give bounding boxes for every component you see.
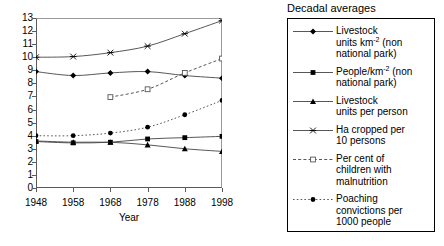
x-axis-label: Year — [36, 212, 222, 223]
y-axis-tick-labels: 012345678910111213 — [0, 18, 33, 188]
legend-label-line: 1000 people — [336, 216, 403, 228]
data-point-circle — [220, 98, 222, 103]
plot-region: 012345678910111213 194819581968197819881… — [0, 0, 232, 246]
y-tick-mark — [32, 149, 36, 150]
series-line — [36, 21, 222, 58]
x-axis-tick-labels: 194819581968197819881998 — [0, 188, 232, 214]
data-point-cross — [107, 50, 114, 56]
data-point-circle — [108, 131, 113, 136]
legend-label-line: units km-2 (non — [336, 37, 402, 49]
x-tick-mark — [185, 188, 186, 192]
data-point-diamond — [36, 69, 39, 75]
legend-key-diamond-icon — [292, 26, 334, 37]
legend-label: Ha cropped per10 persons — [334, 124, 405, 147]
legend-label-line: children with — [336, 164, 392, 176]
data-point-circle — [36, 133, 38, 138]
legend-item-per-cent-children-malnutrition[interactable]: Per cent ofchildren withmalnutrition — [288, 153, 434, 188]
data-point-circle — [145, 125, 150, 130]
data-point-cross — [70, 54, 77, 60]
x-tick-label: 1978 — [136, 198, 158, 208]
legend-label-line: convictions per — [336, 205, 403, 217]
data-point-square — [311, 70, 316, 75]
legend-key-square-icon — [292, 67, 334, 78]
legend-item-ha-cropped-per-10-persons[interactable]: Ha cropped per10 persons — [288, 124, 434, 147]
legend-item-people-per-km2[interactable]: People/km-2 (nonnational park) — [288, 66, 434, 89]
legend-label-line: malnutrition — [336, 176, 392, 188]
y-tick-mark — [32, 175, 36, 176]
series-line — [36, 100, 222, 136]
data-series-layer — [36, 18, 222, 188]
legend-label-line: Livestock — [336, 95, 408, 107]
data-point-cross — [219, 18, 222, 24]
x-tick-label: 1958 — [62, 198, 84, 208]
legend-title: Decadal averages — [287, 2, 376, 15]
data-point-circle — [182, 112, 187, 117]
y-tick-mark — [32, 57, 36, 58]
data-point-circle — [311, 197, 316, 202]
y-tick-mark — [32, 96, 36, 97]
legend-label-line: Per cent of — [336, 153, 392, 165]
data-point-open-square — [311, 157, 316, 162]
y-tick-mark — [32, 18, 36, 19]
data-point-square — [182, 135, 187, 140]
data-point-open-square — [220, 56, 222, 61]
y-tick-mark — [32, 188, 36, 189]
x-tick-label: 1948 — [25, 198, 47, 208]
x-tick-mark — [110, 188, 111, 192]
x-tick-mark — [36, 188, 37, 192]
legend-label-line: national park) — [336, 48, 402, 60]
legend-label: Livestockunits km-2 (nonnational park) — [334, 25, 402, 60]
data-point-square — [145, 137, 150, 142]
data-point-open-square — [108, 95, 113, 100]
y-tick-mark — [32, 110, 36, 111]
series-line — [36, 72, 222, 79]
legend-label: Livestockunits per person — [334, 95, 408, 118]
data-point-open-square — [182, 71, 187, 76]
y-tick-mark — [32, 70, 36, 71]
y-tick-mark — [32, 83, 36, 84]
legend-key-cross-icon — [292, 125, 334, 136]
x-tick-mark — [222, 188, 223, 192]
data-point-cross — [144, 43, 151, 49]
legend-label-line: units per person — [336, 106, 408, 118]
data-point-diamond — [310, 29, 316, 35]
x-tick-label: 1998 — [211, 198, 233, 208]
x-tick-label: 1968 — [99, 198, 121, 208]
y-tick-mark — [32, 44, 36, 45]
x-tick-mark — [148, 188, 149, 192]
legend-label-line: 10 persons — [336, 135, 405, 147]
x-tick-label: 1988 — [174, 198, 196, 208]
data-point-diamond — [219, 75, 222, 81]
legend-label: Poachingconvictions per1000 people — [334, 193, 403, 228]
legend-label: People/km-2 (nonnational park) — [334, 66, 412, 89]
legend-item-livestock-units-per-person[interactable]: Livestockunits per person — [288, 95, 434, 118]
y-tick-mark — [32, 136, 36, 137]
data-point-diamond — [145, 69, 151, 75]
legend-label: Per cent ofchildren withmalnutrition — [334, 153, 392, 188]
data-point-open-square — [145, 87, 150, 92]
data-point-diamond — [70, 73, 76, 79]
data-point-diamond — [107, 70, 113, 76]
legend-item-poaching-convictions[interactable]: Poachingconvictions per1000 people — [288, 193, 434, 228]
data-point-cross — [310, 127, 317, 133]
data-point-cross — [36, 54, 39, 60]
y-tick-mark — [32, 31, 36, 32]
legend-item-livestock-units-per-km2[interactable]: Livestockunits km-2 (nonnational park) — [288, 25, 434, 60]
legend-key-circle-icon — [292, 194, 334, 205]
y-tick-mark — [32, 123, 36, 124]
data-point-cross — [182, 31, 189, 37]
series-line — [110, 59, 222, 98]
legend-label-line: People/km-2 (non — [336, 66, 412, 78]
legend-key-triangle-icon — [292, 96, 334, 107]
data-point-circle — [71, 133, 76, 138]
x-tick-mark — [73, 188, 74, 192]
chart-figure: 012345678910111213 194819581968197819881… — [0, 0, 444, 246]
data-point-square — [220, 134, 222, 139]
legend-label-line: Ha cropped per — [336, 124, 405, 136]
y-tick-mark — [32, 162, 36, 163]
legend-label-line: national park) — [336, 77, 412, 89]
legend-key-open-square-icon — [292, 154, 334, 165]
legend-box: Livestockunits km-2 (nonnational park)Pe… — [287, 18, 435, 232]
legend-label-line: Livestock — [336, 25, 402, 37]
legend-label-line: Poaching — [336, 193, 403, 205]
